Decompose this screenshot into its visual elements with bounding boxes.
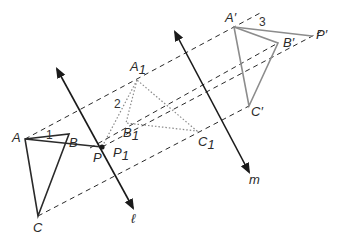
- label-b1: B1: [123, 125, 139, 143]
- label-p1: P1: [113, 145, 129, 163]
- point-p: [99, 144, 104, 149]
- label-line-m: m: [249, 172, 260, 187]
- label-c1: C1: [198, 134, 215, 152]
- label-a: A: [11, 130, 21, 145]
- label-angle-2: 2: [114, 97, 121, 111]
- reflection-diagram: A B C P P1 A1 B1 C1 A′ B′ C′ P′ 1 2 3 ℓ …: [0, 0, 337, 243]
- label-b: B: [69, 135, 78, 150]
- label-p: P: [93, 150, 102, 165]
- dashed-line-c: [38, 106, 249, 216]
- label-c: C: [33, 220, 43, 235]
- label-angle-3: 3: [259, 15, 266, 29]
- triangle-a-prime: [234, 27, 278, 106]
- label-a1: A1: [129, 59, 146, 77]
- segment-ap: [25, 139, 102, 147]
- label-p-prime: P′: [316, 27, 328, 42]
- label-line-l: ℓ: [131, 211, 136, 226]
- dashed-line-b: [90, 43, 278, 148]
- label-a-prime: A′: [224, 10, 237, 25]
- label-b-prime: B′: [283, 35, 295, 50]
- label-angle-1: 1: [46, 128, 53, 142]
- label-c-prime: C′: [251, 104, 263, 119]
